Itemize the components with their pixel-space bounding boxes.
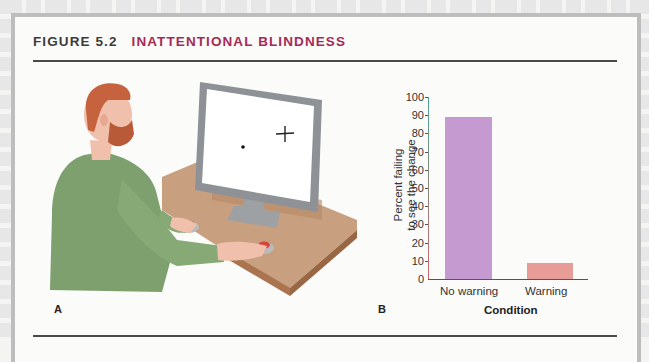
y-tick-100: 100 xyxy=(398,91,424,103)
bar-no-warning xyxy=(445,117,492,279)
x-axis-label: Condition xyxy=(484,304,538,316)
y-tick-60: 60 xyxy=(398,164,424,176)
y-tick-40: 40 xyxy=(398,200,424,212)
y-tick-20: 20 xyxy=(398,237,424,249)
x-category-warning: Warning xyxy=(525,285,567,297)
monitor-screen xyxy=(202,89,314,202)
illustration-man-at-monitor xyxy=(12,70,362,320)
y-tick-0: 0 xyxy=(398,273,424,285)
y-tick-70: 70 xyxy=(398,146,424,158)
y-tick-50: 50 xyxy=(398,182,424,194)
bottom-rule xyxy=(33,335,617,337)
figure-name: INATTENTIONAL BLINDNESS xyxy=(132,34,347,49)
y-tick-10: 10 xyxy=(398,255,424,267)
y-axis xyxy=(428,97,429,280)
y-tick-80: 80 xyxy=(398,127,424,139)
fixation-dot xyxy=(241,145,245,149)
title-rule xyxy=(33,60,617,62)
bar-chart: Percent failing to see the change 100 90… xyxy=(370,88,620,328)
panel-label-a: A xyxy=(54,303,62,315)
figure-title: FIGURE 5.2INATTENTIONAL BLINDNESS xyxy=(33,34,346,49)
x-axis xyxy=(428,279,588,280)
y-tick-90: 90 xyxy=(398,109,424,121)
bar-warning xyxy=(527,263,573,279)
figure-number: FIGURE 5.2 xyxy=(33,34,118,49)
x-category-no-warning: No warning xyxy=(440,285,498,297)
y-tick-30: 30 xyxy=(398,218,424,230)
